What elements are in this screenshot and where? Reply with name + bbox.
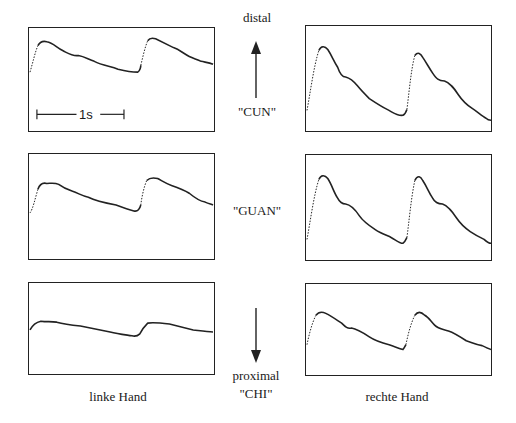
right-hand-label: rechte Hand xyxy=(365,389,428,405)
left-hand-label: linke Hand xyxy=(89,389,146,405)
chi-label: "CHI" xyxy=(239,386,272,402)
distal-label: distal xyxy=(243,10,271,26)
proximal-arrow-icon xyxy=(251,308,261,363)
proximal-label: proximal xyxy=(233,368,280,384)
guan-label: "GUAN" xyxy=(233,203,281,219)
distal-arrow-icon xyxy=(251,41,261,98)
cun-label: "CUN" xyxy=(238,104,276,120)
